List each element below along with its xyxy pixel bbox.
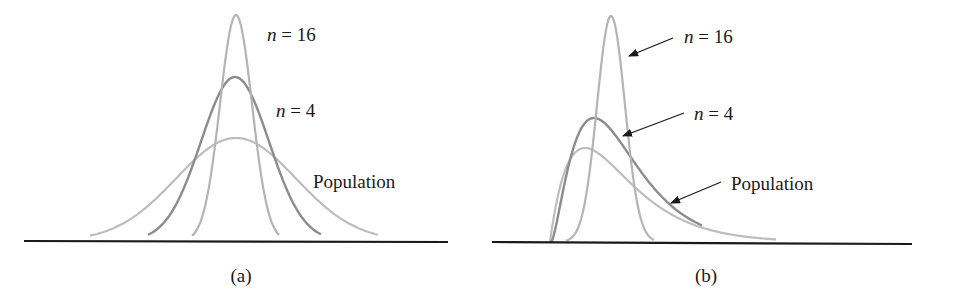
arrow-n4-b — [623, 113, 684, 136]
panel-b: n = 16 n = 4 Population (b) — [492, 16, 912, 287]
label-n16-a: n = 16 — [267, 24, 316, 45]
label-n4-b: n = 4 — [694, 103, 734, 124]
population-curve-b — [550, 148, 776, 242]
label-n16-b: n = 16 — [684, 26, 733, 47]
label-population-b: Population — [731, 173, 814, 194]
n16-curve-a — [192, 15, 279, 236]
label-population-a: Population — [313, 171, 396, 192]
caption-a: (a) — [230, 265, 251, 287]
label-n4-a: n = 4 — [276, 100, 316, 121]
baseline-b — [492, 242, 912, 244]
baseline-a — [24, 241, 448, 242]
caption-b: (b) — [695, 265, 717, 287]
arrow-n16-b — [629, 38, 673, 56]
panel-a: n = 16 n = 4 Population (a) — [24, 15, 448, 287]
arrow-population-b — [671, 182, 721, 203]
figure: n = 16 n = 4 Population (a) n = 16 n = 4… — [0, 0, 953, 304]
